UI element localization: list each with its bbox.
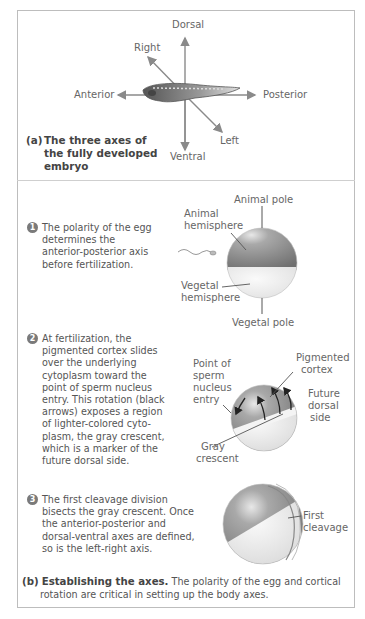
label-animal-hemisphere-2: hemisphere (184, 220, 243, 232)
label-point-of-entry-2: sperm (193, 370, 224, 382)
label-future-dorsal-1: Future (308, 388, 340, 400)
label-pigmented-cortex-2: cortex (301, 364, 333, 376)
label-anterior: Anterior (74, 89, 114, 101)
caption-b-title: Establishing the axes. (42, 576, 169, 587)
label-dorsal: Dorsal (172, 19, 204, 31)
label-right: Right (134, 42, 160, 54)
caption-b-text-2: rotation are critical in setting up the … (22, 589, 352, 602)
label-first-cleavage-1: First (303, 510, 324, 522)
step-3-badge: 3 (27, 494, 38, 505)
label-point-of-entry-3: nucleus (193, 382, 232, 394)
label-point-of-entry-4: entry (193, 394, 219, 406)
caption-a-line-2: the fully developed (44, 147, 157, 160)
label-gray-crescent-2: crescent (196, 453, 239, 465)
egg-sphere-3 (220, 480, 310, 570)
label-pigmented-cortex-1: Pigmented (296, 352, 350, 364)
label-vegetal-pole: Vegetal pole (232, 317, 294, 329)
label-point-of-entry-1: Point of (193, 358, 231, 370)
step-3-text: 3The first cleavage division bisects the… (27, 494, 207, 555)
label-future-dorsal-2: dorsal (308, 400, 339, 412)
caption-a-label: (a) (26, 134, 43, 147)
step-2-text: 2At fertilization, the pigmented cortex … (27, 333, 177, 467)
label-animal-hemisphere-1: Animal (184, 208, 219, 220)
caption-b: (b) Establishing the axes. The polarity … (22, 576, 352, 601)
label-left: Left (220, 135, 239, 147)
step-1-text: 1The polarity of the egg determines the … (27, 222, 177, 271)
label-posterior: Posterior (263, 89, 307, 101)
label-animal-pole: Animal pole (234, 194, 293, 206)
caption-a-line-1: The three axes of (44, 134, 147, 147)
label-first-cleavage-2: cleavage (303, 522, 348, 534)
step-1-badge: 1 (27, 222, 38, 233)
caption-b-label: (b) (22, 576, 39, 587)
embryo-shape (143, 83, 240, 101)
label-ventral: Ventral (170, 151, 206, 163)
label-vegetal-hemisphere-1: Vegetal (181, 280, 219, 292)
step-2-badge: 2 (27, 333, 38, 344)
label-gray-crescent-1: Gray (201, 441, 225, 453)
label-vegetal-hemisphere-2: hemisphere (181, 292, 240, 304)
label-future-dorsal-3: side (310, 412, 331, 424)
caption-b-text-1: The polarity of the egg and cortical (168, 576, 340, 587)
caption-a-line-3: embryo (44, 160, 88, 173)
